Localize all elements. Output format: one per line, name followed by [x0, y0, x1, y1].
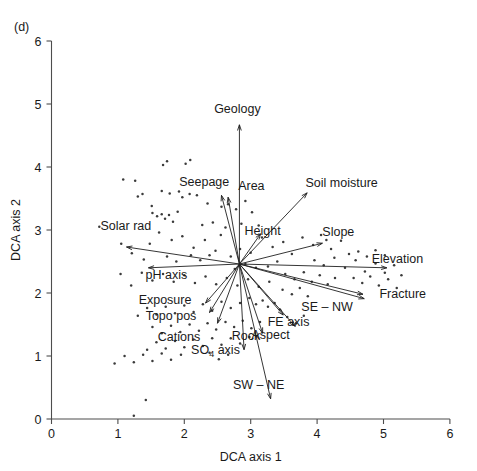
- label-seepage: Seepage: [179, 175, 229, 189]
- scatter-point: [313, 259, 316, 262]
- scatter-point: [268, 280, 271, 283]
- scatter-point: [291, 253, 294, 256]
- scatter-point: [123, 355, 126, 358]
- x-tick-label-5: 5: [380, 427, 387, 441]
- scatter-point: [208, 254, 211, 257]
- scatter-point: [357, 250, 360, 253]
- scatter-point: [160, 352, 163, 355]
- scatter-point: [183, 346, 186, 349]
- scatter-point: [366, 255, 369, 258]
- scatter-point: [201, 224, 204, 227]
- scatter-point: [235, 208, 238, 211]
- x-tick-label-1: 1: [114, 427, 121, 441]
- scatter-point: [202, 303, 205, 306]
- scatter-point: [236, 284, 239, 287]
- scatter-point: [199, 259, 202, 262]
- label-se-nw: SE – NW: [301, 300, 353, 314]
- scatter-point: [299, 287, 302, 290]
- scatter-point: [151, 205, 154, 208]
- scatter-point: [142, 353, 145, 356]
- label-height: Height: [245, 224, 282, 238]
- label-slope: Slope: [322, 225, 354, 239]
- scatter-point: [188, 323, 191, 326]
- scatter-point: [113, 362, 116, 365]
- scatter-point: [301, 236, 304, 239]
- y-tick-label-2: 2: [35, 287, 42, 301]
- scatter-point: [162, 164, 165, 167]
- scatter-point: [164, 217, 167, 220]
- scatter-point: [215, 283, 218, 286]
- scatter-point: [176, 210, 179, 213]
- vector-area: [228, 197, 239, 264]
- scatter-point: [230, 307, 233, 310]
- scatter-point: [170, 239, 173, 242]
- label-geology: Geology: [214, 102, 261, 116]
- scatter-point: [170, 359, 173, 362]
- scatter-point: [137, 195, 140, 198]
- scatter-point: [230, 255, 233, 258]
- scatter-point: [307, 295, 310, 298]
- label-fracture: Fracture: [379, 287, 426, 301]
- scatter-point: [333, 256, 336, 259]
- scatter-point: [133, 415, 136, 418]
- scatter-point: [364, 270, 367, 273]
- y-tick-label-5: 5: [35, 98, 42, 112]
- scatter-point: [220, 205, 223, 208]
- scatter-point: [164, 347, 167, 350]
- scatter-point: [149, 243, 152, 246]
- scatter-point: [361, 282, 364, 285]
- scatter-point: [141, 193, 144, 196]
- scatter-point: [151, 360, 154, 363]
- vector-se-nw: [239, 264, 364, 299]
- scatter-point: [190, 254, 193, 257]
- y-tick-label-4: 4: [35, 161, 42, 175]
- x-tick-label-6: 6: [446, 427, 453, 441]
- scatter-point: [220, 301, 223, 304]
- scatter-point: [239, 302, 242, 305]
- scatter-point: [384, 272, 387, 275]
- y-axis-title: DCA axis 2: [9, 199, 23, 261]
- scatter-point: [400, 274, 403, 277]
- scatter-point: [224, 226, 227, 229]
- scatter-point: [330, 248, 333, 251]
- scatter-point: [131, 252, 134, 255]
- scatter-point: [340, 239, 343, 242]
- scatter-point: [141, 272, 144, 275]
- scatter-point: [387, 278, 390, 281]
- scatter-point: [188, 193, 191, 196]
- scatter-point: [189, 159, 192, 162]
- scatter-point: [166, 160, 169, 163]
- scatter-point: [133, 361, 136, 364]
- scatter-point: [220, 234, 223, 237]
- scatter-point: [181, 196, 184, 199]
- scatter-point: [160, 190, 163, 193]
- scatter-point: [184, 163, 187, 166]
- scatter-point: [194, 282, 197, 285]
- scatter-point: [212, 221, 215, 224]
- scatter-point: [180, 353, 183, 356]
- environmental-vectors-group: [127, 125, 387, 399]
- scatter-point: [271, 246, 274, 249]
- scatter-point: [158, 231, 161, 234]
- scatter-point: [120, 243, 123, 246]
- scatter-point: [267, 265, 270, 268]
- scatter-point: [276, 260, 279, 263]
- scatter-point: [348, 253, 351, 256]
- scatter-point: [168, 214, 171, 217]
- x-tick-label-4: 4: [314, 427, 321, 441]
- y-tick-label-3: 3: [35, 224, 42, 238]
- scatter-point: [168, 192, 171, 195]
- scatter-point: [172, 221, 175, 224]
- label-rock: Rock: [232, 329, 261, 343]
- vector-solar-rad: [127, 247, 240, 264]
- dca-ordination-figure: 01234560123456DCA axis 1DCA axis 2 Geolo…: [0, 0, 477, 471]
- scatter-point: [211, 337, 214, 340]
- dca-biplot-svg: 01234560123456DCA axis 1DCA axis 2 Geolo…: [0, 0, 477, 471]
- label-topo-pos: Topo pos: [146, 309, 197, 323]
- label-sw-ne: SW – NE: [233, 378, 284, 392]
- scatter-point: [156, 215, 159, 218]
- scatter-point: [181, 235, 184, 238]
- vector-elevation: [239, 264, 386, 268]
- y-tick-label-0: 0: [35, 413, 42, 427]
- label-solar-rad: Solar rad: [101, 219, 152, 233]
